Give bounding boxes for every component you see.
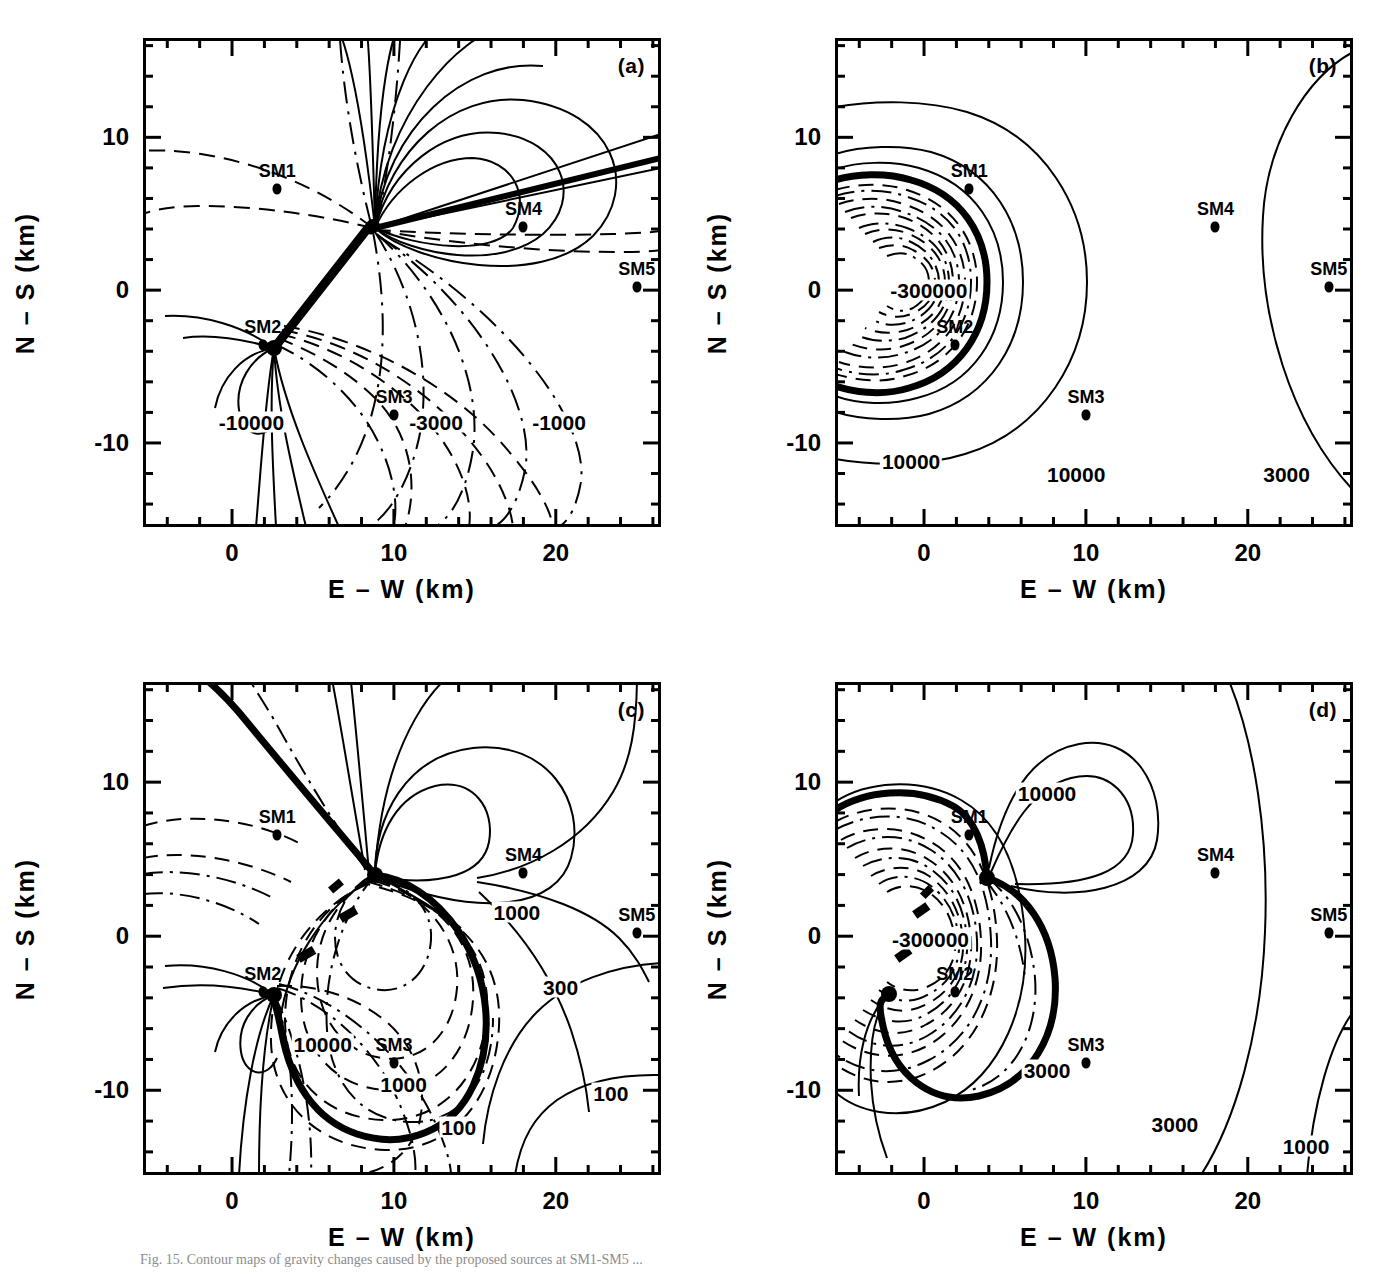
station-marker-sm1: [965, 829, 974, 840]
station-label-sm2: SM2: [244, 317, 281, 338]
station-marker-sm3: [389, 1057, 398, 1068]
xtick-label-0: 0: [225, 539, 238, 567]
contour-label-c-2: 100: [591, 1083, 630, 1104]
station-label-sm5: SM5: [618, 905, 655, 926]
station-marker-sm1: [273, 184, 282, 195]
contour-label-c-4: 1000: [378, 1074, 429, 1095]
station-label-sm1: SM1: [259, 807, 296, 828]
y-axis-title: N – S (km): [11, 857, 40, 999]
station-label-sm2: SM2: [936, 964, 973, 985]
station-marker-sm3: [389, 410, 398, 421]
panel-d: (d) 01020100-10E – W (km)N – S (km)SM1SM…: [835, 682, 1353, 1175]
xtick-label-20: 20: [1234, 1187, 1261, 1215]
x-axis-title: E – W (km): [328, 1223, 476, 1252]
contour-label-b-2: 10000: [1045, 463, 1107, 484]
contour-label-d-0: 10000: [1016, 782, 1078, 803]
contour-label-c-5: 100: [439, 1117, 478, 1138]
station-label-sm2: SM2: [244, 964, 281, 985]
contour-label-b-3: 3000: [1261, 463, 1312, 484]
y-axis-title: N – S (km): [703, 857, 732, 999]
xtick-label-0: 0: [917, 539, 930, 567]
station-label-sm3: SM3: [375, 387, 412, 408]
ytick-label-10: 10: [794, 768, 821, 796]
ytick-label-0: 0: [116, 276, 129, 304]
figure-contour-maps: (a) 01020100-10E – W (km)N – S (km)SM1SM…: [0, 0, 1390, 1274]
station-marker-sm5: [632, 928, 641, 939]
xtick-label-0: 0: [917, 1187, 930, 1215]
x-axis-title: E – W (km): [1020, 1223, 1168, 1252]
xtick-label-20: 20: [542, 1187, 569, 1215]
xtick-label-10: 10: [1073, 539, 1100, 567]
xtick-label-20: 20: [542, 539, 569, 567]
station-label-sm3: SM3: [375, 1035, 412, 1056]
contour-label-b-1: 10000: [880, 451, 942, 472]
contour-label-a-1: -3000: [407, 411, 465, 432]
xtick-label-10: 10: [381, 539, 408, 567]
station-marker-sm1: [273, 829, 282, 840]
panel-c: (c) 01020100-10E – W (km)N – S (km)SM1SM…: [143, 682, 661, 1175]
station-marker-sm4: [1211, 868, 1220, 879]
panel-a: (a) 01020100-10E – W (km)N – S (km)SM1SM…: [143, 38, 661, 527]
ytick-label-0: 0: [808, 276, 821, 304]
ytick-label-10: 10: [102, 768, 129, 796]
contour-label-d-1: -300000: [890, 929, 971, 950]
ytick-label-0: 0: [116, 922, 129, 950]
station-label-sm1: SM1: [951, 807, 988, 828]
station-marker-sm2: [950, 986, 959, 997]
contour-label-c-0: 1000: [492, 901, 543, 922]
station-label-sm1: SM1: [951, 161, 988, 182]
contour-label-a-2: -1000: [530, 411, 588, 432]
station-marker-sm4: [519, 868, 528, 879]
ytick-label-10: 10: [102, 123, 129, 151]
station-marker-sm3: [1081, 410, 1090, 421]
station-marker-sm2: [258, 986, 267, 997]
station-label-sm4: SM4: [505, 845, 542, 866]
ytick-label-10: 10: [794, 123, 821, 151]
contour-label-d-3: 3000: [1150, 1114, 1201, 1135]
panel-a-ticks: [143, 38, 661, 527]
station-marker-sm5: [1324, 282, 1333, 293]
contour-label-d-2: 3000: [1022, 1060, 1073, 1081]
panel-b: (b) 01020100-10E – W (km)N – S (km)SM1SM…: [835, 38, 1353, 527]
station-label-sm5: SM5: [1310, 905, 1347, 926]
station-label-sm4: SM4: [1197, 845, 1234, 866]
contour-label-b-0: -300000: [888, 280, 969, 301]
station-marker-sm3: [1081, 1057, 1090, 1068]
x-axis-title: E – W (km): [328, 575, 476, 604]
station-marker-sm5: [632, 282, 641, 293]
y-axis-title: N – S (km): [11, 211, 40, 353]
station-marker-sm4: [1211, 222, 1220, 233]
ytick-label--10: -10: [786, 429, 821, 457]
station-marker-sm2: [258, 340, 267, 351]
y-axis-title: N – S (km): [703, 211, 732, 353]
ytick-label--10: -10: [94, 429, 129, 457]
station-marker-sm5: [1324, 928, 1333, 939]
station-label-sm3: SM3: [1067, 387, 1104, 408]
ytick-label-0: 0: [808, 922, 821, 950]
station-label-sm2: SM2: [936, 317, 973, 338]
station-label-sm3: SM3: [1067, 1035, 1104, 1056]
station-label-sm5: SM5: [618, 259, 655, 280]
contour-label-a-0: -10000: [217, 411, 286, 432]
ytick-label--10: -10: [786, 1076, 821, 1104]
xtick-label-10: 10: [381, 1187, 408, 1215]
station-label-sm4: SM4: [505, 199, 542, 220]
contour-label-c-1: 300: [541, 977, 580, 998]
station-marker-sm1: [965, 184, 974, 195]
figure-caption: Fig. 15. Contour maps of gravity changes…: [140, 1252, 1260, 1272]
station-label-sm5: SM5: [1310, 259, 1347, 280]
contour-label-c-3: 10000: [291, 1034, 353, 1055]
x-axis-title: E – W (km): [1020, 575, 1168, 604]
xtick-label-20: 20: [1234, 539, 1261, 567]
panel-c-ticks: [143, 682, 661, 1175]
xtick-label-0: 0: [225, 1187, 238, 1215]
xtick-label-10: 10: [1073, 1187, 1100, 1215]
ytick-label--10: -10: [94, 1076, 129, 1104]
station-label-sm4: SM4: [1197, 199, 1234, 220]
contour-label-d-4: 1000: [1281, 1135, 1332, 1156]
station-marker-sm2: [950, 340, 959, 351]
station-marker-sm4: [519, 222, 528, 233]
station-label-sm1: SM1: [259, 161, 296, 182]
